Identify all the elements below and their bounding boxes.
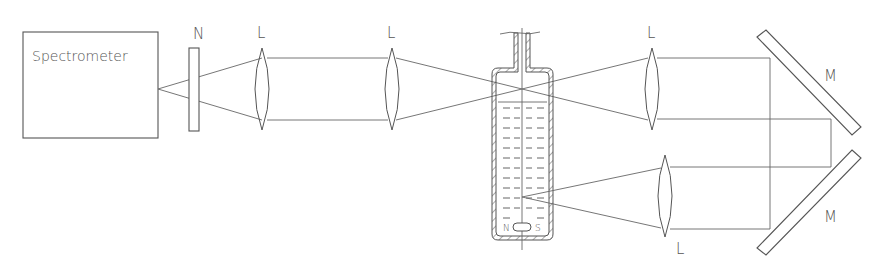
lens-1: L	[255, 24, 269, 130]
liquid-dashes	[503, 108, 544, 218]
beam-input	[158, 58, 262, 120]
lens-4-label: L	[676, 240, 684, 258]
lens-2-label: L	[387, 24, 395, 42]
mirror-bottom: M	[757, 150, 861, 255]
mirror-bottom-label: M	[824, 208, 837, 226]
stir-bar-magnet: N S	[503, 223, 541, 233]
filter: N	[189, 25, 204, 131]
magnet-north-label: N	[503, 223, 510, 233]
optical-diagram: Spectrometer N L L	[0, 0, 881, 263]
lens-3: L	[645, 24, 659, 130]
mirror-top-label: M	[824, 67, 837, 85]
spectrometer-label: Spectrometer	[32, 48, 128, 64]
lens-1-label: L	[257, 24, 265, 42]
spectrometer: Spectrometer	[23, 32, 158, 138]
magnet-south-label: S	[535, 223, 541, 233]
lens-2: L	[385, 24, 399, 130]
beam-collimated-1	[267, 58, 388, 120]
filter-label: N	[193, 25, 204, 43]
lens-4: L	[658, 155, 684, 258]
sample-cell: N S	[492, 28, 553, 250]
beam-upper-return	[657, 58, 831, 119]
lens-3-label: L	[647, 24, 655, 42]
